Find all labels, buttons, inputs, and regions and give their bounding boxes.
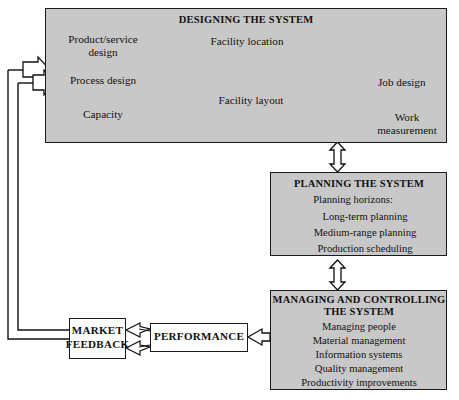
product-service-design-label-line2: design [88, 46, 117, 59]
planning-item-long-term: Long-term planning [322, 211, 407, 223]
facility-layout-label: Facility layout [219, 94, 284, 107]
operations-management-diagram: DESIGNING THE SYSTEM Product/service des… [0, 0, 459, 400]
facility-location-label: Facility location [210, 35, 283, 48]
job-design-label: Job design [378, 76, 426, 89]
process-design-label: Process design [70, 74, 136, 87]
performance-label: PERFORMANCE [154, 330, 244, 344]
block-arrow-planning-managing [330, 260, 345, 290]
planning-the-system-title: PLANNING THE SYSTEM [294, 178, 424, 190]
managing-item-quality-management: Quality management [315, 363, 404, 375]
managing-item-managing-people: Managing people [322, 321, 396, 333]
work-measurement-label-line1: Work [395, 111, 420, 124]
market-feedback-label-line1: MARKET [72, 324, 123, 338]
managing-item-material-management: Material management [313, 335, 406, 347]
managing-and-controlling-title-line2: THE SYSTEM [324, 306, 394, 318]
managing-item-productivity-improvements: Productivity improvements [301, 377, 417, 389]
arrow-performance-to-market-feedback-upper [126, 323, 150, 337]
managing-and-controlling-title-line1: MANAGING AND CONTROLLING [273, 294, 446, 306]
planning-item-medium-range: Medium-range planning [314, 227, 417, 239]
managing-item-information-systems: Information systems [316, 349, 403, 361]
capacity-label: Capacity [83, 108, 123, 121]
work-measurement-label-line2: measurement [377, 124, 437, 137]
planning-horizons-heading: Planning horizons: [313, 194, 393, 206]
market-feedback-label-line2: FEEDBACK [66, 338, 130, 352]
product-service-design-label-line1: Product/service [68, 33, 138, 46]
block-arrow-managing-performance [248, 329, 270, 345]
planning-item-production-scheduling: Production scheduling [317, 243, 412, 255]
designing-the-system-title: DESIGNING THE SYSTEM [179, 14, 314, 26]
block-arrow-designing-planning [330, 142, 345, 172]
